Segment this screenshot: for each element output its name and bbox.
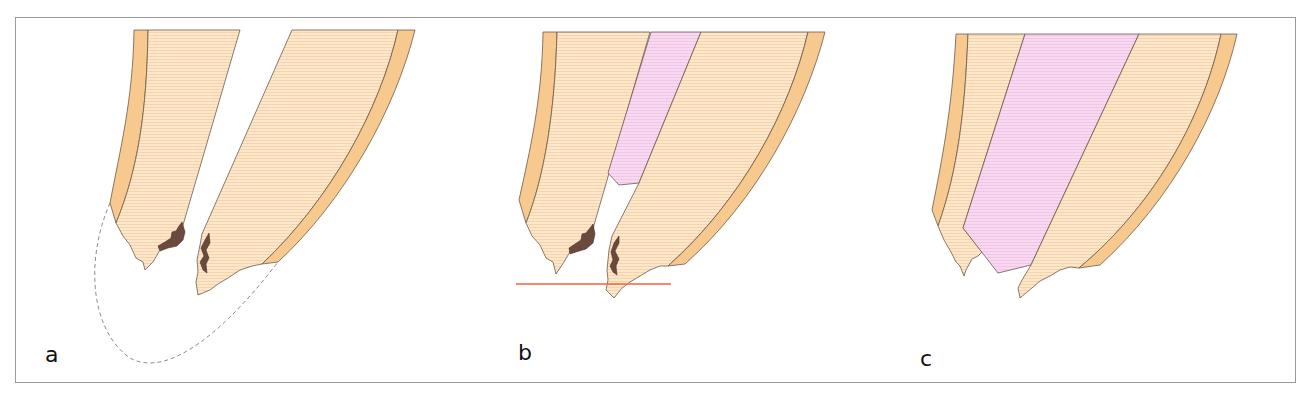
panel-label-b: b xyxy=(518,342,532,364)
panel-b xyxy=(516,32,825,298)
panel-label-c: c xyxy=(920,348,932,370)
panel-label-a: a xyxy=(45,344,58,366)
dental-root-diagram xyxy=(0,0,1308,395)
panel-a xyxy=(95,30,415,363)
panel-c xyxy=(932,34,1237,298)
